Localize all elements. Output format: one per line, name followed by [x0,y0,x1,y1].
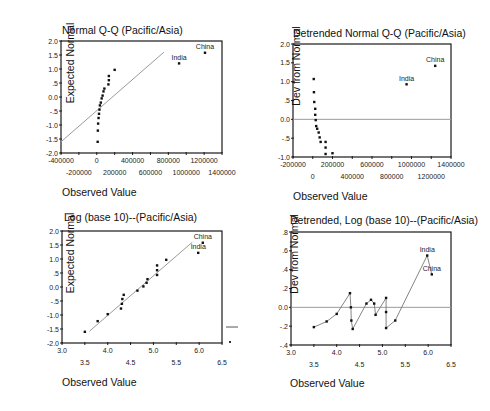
point-label: India [420,246,435,253]
x-tick-label: 4.5 [355,361,365,368]
point-label: China [194,233,212,240]
reference-line [61,52,164,142]
data-point [352,328,354,330]
data-point [102,90,104,92]
y-tick-label: 2.0 [48,38,58,45]
x-tick-label: 1400000 [208,169,235,176]
data-point [314,114,316,116]
plot-canvas: 2.01.51.0.50.0-.5-1.0-1.5-2.0-4000000400… [0,0,490,411]
data-point [113,69,115,71]
y-tick-label: -2.0 [47,340,59,347]
y-tick-label: -1.0 [46,122,58,129]
y-tick-label: -1.0 [278,154,290,161]
reference-line [89,242,192,331]
data-point [142,285,144,287]
data-point [374,314,376,316]
y-tick-label: .6 [282,247,288,254]
x-tick-label: 6.5 [217,359,227,366]
data-point [373,302,375,304]
data-point [97,129,99,131]
data-point [156,274,158,276]
x-tick-label: 0 [95,157,99,164]
x-tick-label: 400000 [121,157,144,164]
data-point [107,313,109,315]
data-point [100,97,102,99]
x-tick-label: 3.0 [57,347,67,354]
x-tick-label: 3.0 [286,349,296,356]
y-tick-label: -.5 [50,108,58,115]
y-tick-label: 0.0 [278,304,288,311]
y-tick-label: -2.0 [46,150,58,157]
data-point [97,122,99,124]
x-tick-label: 1000000 [173,169,200,176]
data-point [315,125,317,127]
data-point [405,83,407,85]
data-point [314,108,316,110]
data-point [331,152,333,154]
data-point [349,292,351,294]
y-tick-label: -.4 [280,342,288,349]
plot-qq: 2.01.51.0.50.0-.5-1.0-1.5-2.0-4000000400… [46,38,236,177]
y-tick-label: 1.5 [280,59,290,66]
x-tick-label: -200000 [66,169,92,176]
data-point [136,289,138,291]
x-tick-label: 400000 [341,173,364,180]
point-label: China [423,265,441,272]
y-tick-label: 2.0 [49,228,59,235]
data-point [426,254,428,256]
data-point [385,297,387,299]
x-tick-label: 800000 [380,173,403,180]
y-tick-label: -1.5 [46,136,58,143]
data-point [313,91,315,93]
data-point [96,141,98,143]
x-tick-label: 1400000 [437,161,464,168]
data-point [315,119,317,121]
data-point [336,313,338,315]
x-tick-label: 4.0 [332,349,342,356]
x-tick-label: 6.5 [446,361,456,368]
data-point [365,302,367,304]
x-tick-label: 0 [311,173,315,180]
y-tick-label: 1.0 [280,78,290,85]
data-point [108,79,110,81]
data-point [324,153,326,155]
series-line [314,256,432,330]
data-point [350,306,352,308]
y-tick-label: -1.5 [47,326,59,333]
y-tick-label: 0.0 [280,116,290,123]
x-tick-label: 800000 [157,157,180,164]
data-point [103,87,105,89]
point-label: China [196,43,214,50]
y-tick-label: -1.0 [47,312,59,319]
data-point [325,320,327,322]
data-point [324,146,326,148]
data-point [350,319,352,321]
plot-detrended-qq: 2.01.51.0.50.0-.5-1.0-200000200000600000… [278,41,465,181]
x-tick-label: 6.0 [194,347,204,354]
data-point [146,278,148,280]
data-point [385,311,387,313]
data-point [434,65,436,67]
y-tick-label: 1.0 [49,256,59,263]
x-tick-label: 600000 [360,161,383,168]
data-point [96,320,98,322]
data-point [101,94,103,96]
x-tick-label: 5.0 [149,347,159,354]
x-tick-label: 3.5 [309,361,319,368]
x-tick-label: 5.0 [378,349,388,356]
x-tick-label: 5.5 [171,359,181,366]
data-point [385,327,387,329]
point-label: India [171,54,186,61]
data-point [156,264,158,266]
x-tick-label: 4.5 [126,359,136,366]
data-point [97,117,99,119]
x-tick-label: 600000 [139,169,162,176]
y-tick-label: .4 [282,266,288,273]
stray-dot-mark [229,341,231,343]
data-point [99,104,101,106]
x-tick-label: -200000 [280,161,306,168]
point-label: India [399,75,414,82]
x-tick-label: 1200000 [418,173,445,180]
data-point [100,101,102,103]
y-tick-label: .5 [52,80,58,87]
